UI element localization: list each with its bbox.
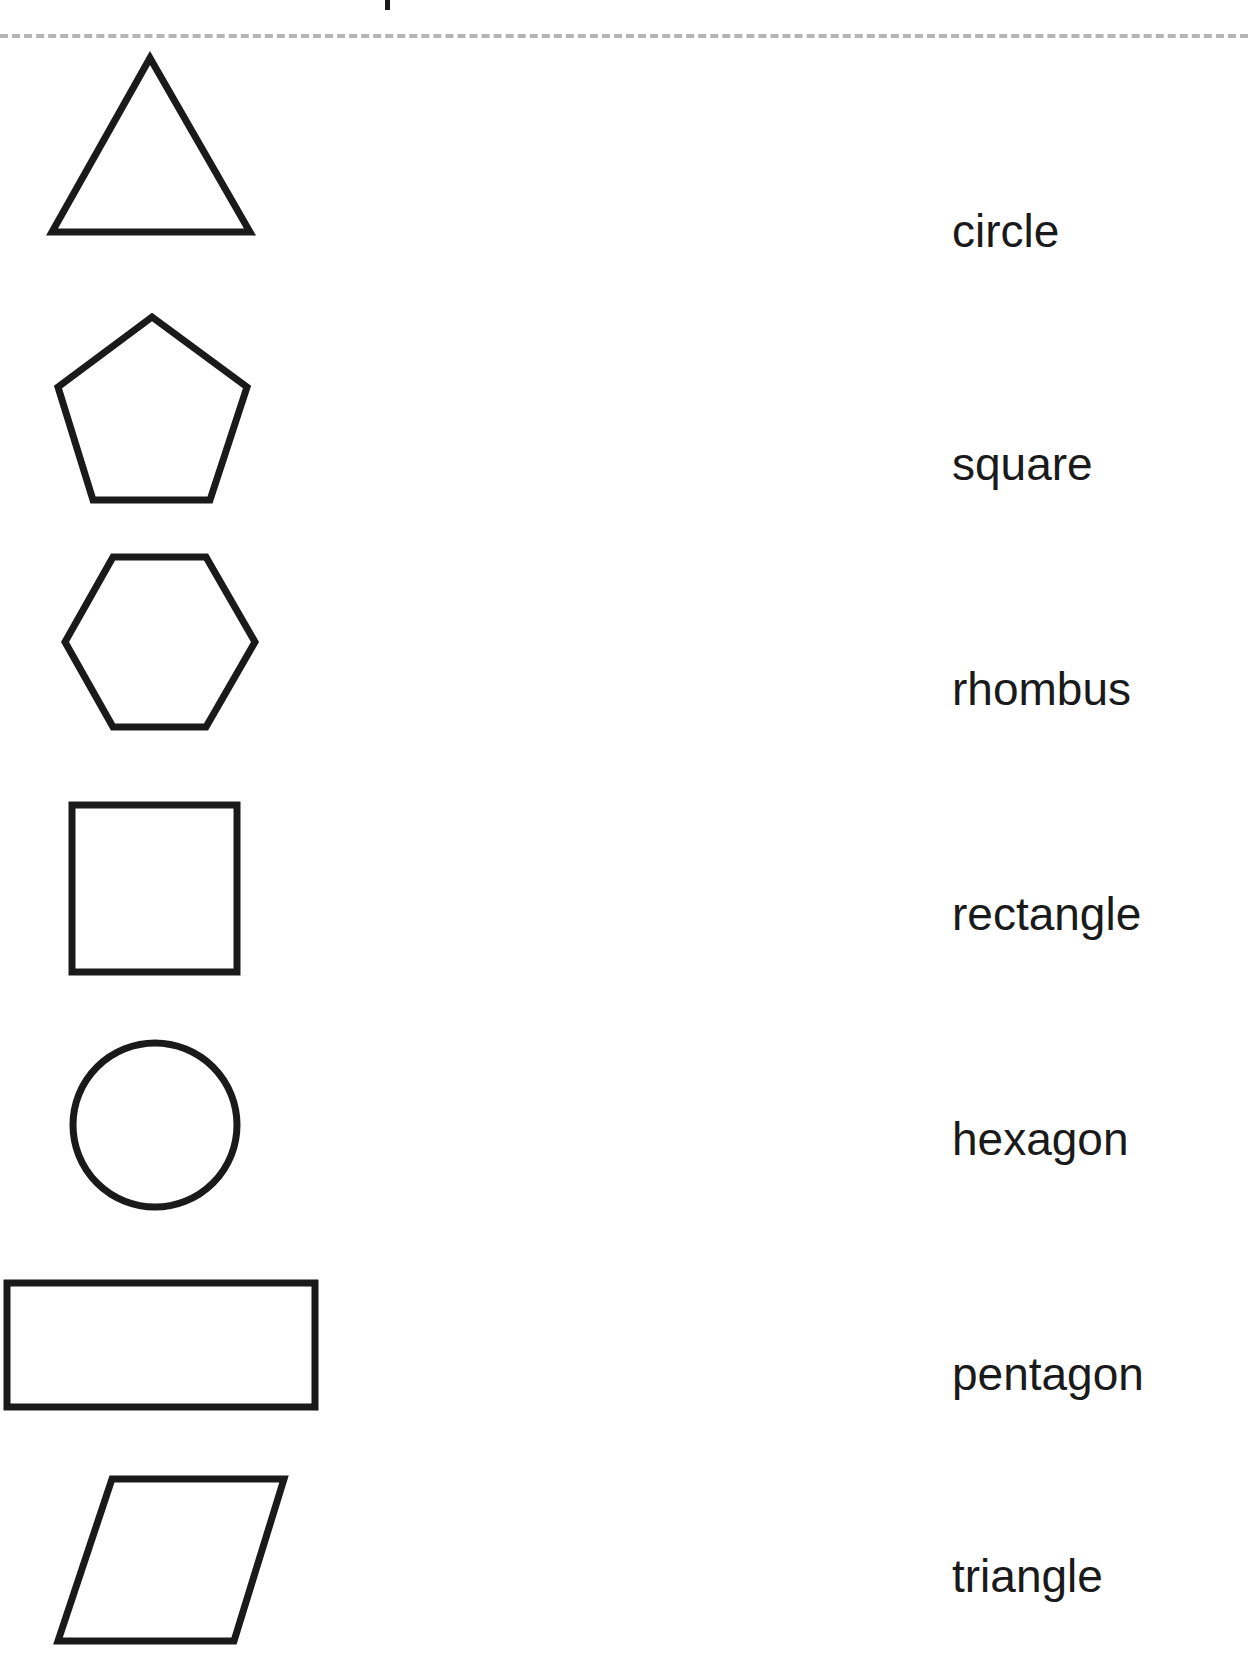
word-label: circle <box>952 208 1059 254</box>
word-label: pentagon <box>952 1351 1144 1397</box>
word-label: rhombus <box>952 666 1131 712</box>
circle-shape <box>73 1043 237 1207</box>
shapes-column <box>0 0 1248 1667</box>
hexagon-shape <box>65 557 255 727</box>
word-label: square <box>952 441 1093 487</box>
square-shape <box>72 805 237 972</box>
rhombus-shape <box>58 1479 284 1641</box>
word-label: hexagon <box>952 1116 1129 1162</box>
word-label: rectangle <box>952 891 1141 937</box>
rectangle-shape <box>7 1283 315 1407</box>
word-label: triangle <box>952 1553 1103 1599</box>
triangle-shape <box>52 58 250 232</box>
pentagon-shape <box>58 317 247 500</box>
